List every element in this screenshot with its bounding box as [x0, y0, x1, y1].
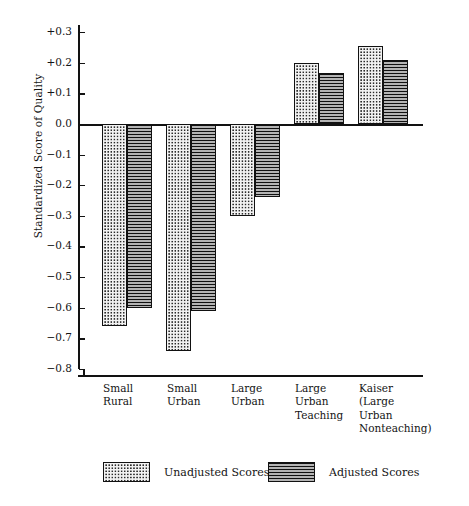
plot-area: +0.3+0.2+0.10.0−0.1−0.2−0.3−0.4−0.5−0.6−…	[78, 25, 423, 375]
y-axis-line	[78, 25, 80, 369]
bar	[166, 124, 191, 351]
y-tick-label: 0.0	[55, 117, 72, 130]
bar	[230, 124, 255, 216]
x-axis-label-4: Kaiser (Large Urban Nonteaching)	[359, 382, 432, 436]
y-tick-mark	[79, 338, 85, 339]
y-tick-label: −0.5	[47, 270, 73, 283]
y-tick-mark	[79, 216, 85, 217]
y-tick-label: −0.3	[47, 209, 73, 222]
legend-item-1[interactable]: Adjusted Scores	[268, 462, 419, 482]
bar	[383, 60, 408, 124]
chart-legend: Unadjusted ScoresAdjusted Scores	[0, 462, 469, 494]
y-tick-label: −0.8	[47, 362, 73, 375]
legend-item-0[interactable]: Unadjusted Scores	[103, 462, 269, 482]
bar	[358, 46, 383, 124]
bar	[319, 73, 344, 124]
y-tick-label: −0.4	[47, 239, 73, 252]
bar	[191, 124, 216, 311]
x-axis-label-1: Small Urban	[167, 382, 201, 409]
bar	[294, 63, 319, 124]
y-tick-label: −0.1	[47, 148, 73, 161]
legend-swatch-horizontal-lines	[268, 462, 315, 482]
y-tick-mark	[79, 277, 85, 278]
x-axis-label-3: Large Urban Teaching	[295, 382, 343, 422]
y-tick-mark	[79, 32, 85, 33]
y-tick-label: +0.1	[47, 86, 73, 99]
bar	[255, 124, 280, 198]
y-tick-mark	[79, 185, 85, 186]
bar	[127, 124, 152, 308]
y-tick-label: +0.2	[47, 56, 73, 69]
legend-swatch-dots	[103, 462, 150, 482]
y-axis-title: Standardized Score of Quality	[32, 46, 44, 266]
y-tick-mark	[79, 308, 85, 309]
y-tick-mark	[79, 369, 85, 370]
y-tick-mark	[79, 246, 85, 247]
x-axis-label-2: Large Urban	[231, 382, 265, 409]
y-tick-mark	[79, 63, 85, 64]
bar-chart-figure: Standardized Score of Quality +0.3+0.2+0…	[0, 0, 469, 506]
y-tick-label: +0.3	[47, 25, 73, 38]
x-axis-label-0: Small Rural	[103, 382, 133, 409]
bar	[102, 124, 127, 326]
y-tick-label: −0.2	[47, 178, 73, 191]
y-tick-label: −0.7	[47, 331, 73, 344]
y-tick-label: −0.6	[47, 301, 73, 314]
y-tick-mark	[79, 155, 85, 156]
y-tick-mark	[79, 93, 85, 94]
x-axis-line	[78, 375, 423, 377]
legend-label: Unadjusted Scores	[164, 466, 269, 479]
legend-label: Adjusted Scores	[329, 466, 419, 479]
